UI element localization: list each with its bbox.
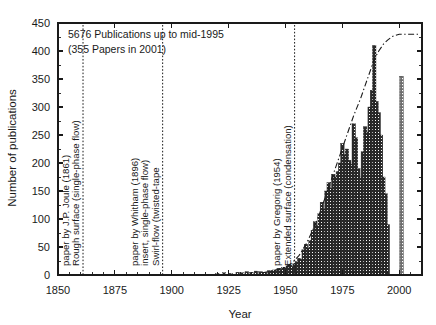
y-tick-label: 50 bbox=[38, 241, 50, 253]
event-annotation-line: insert, single-phase flow) bbox=[139, 160, 150, 266]
y-tick-label: 0 bbox=[44, 269, 50, 281]
event-annotation-line: Extended surface (condensation) bbox=[282, 125, 293, 266]
x-tick-label: 1850 bbox=[46, 284, 70, 296]
y-tick-label: 400 bbox=[32, 45, 50, 57]
y-tick-label: 450 bbox=[32, 17, 50, 29]
event-annotation-joule: Rough surface (single-phase flow)paper b… bbox=[60, 25, 83, 275]
event-annotation-line: paper by J.P. Joule (1861) bbox=[60, 155, 71, 266]
bar bbox=[386, 225, 390, 275]
y-tick-label: 200 bbox=[32, 157, 50, 169]
y-tick-label: 350 bbox=[32, 73, 50, 85]
plot-area bbox=[215, 34, 419, 275]
x-tick-label: 1900 bbox=[160, 284, 184, 296]
y-tick-label: 150 bbox=[32, 185, 50, 197]
chart-canvas: 0501001502002503003504004501850187519001… bbox=[0, 0, 436, 325]
y-tick-label: 100 bbox=[32, 213, 50, 225]
y-tick-label: 250 bbox=[32, 129, 50, 141]
x-tick-label: 1875 bbox=[103, 284, 127, 296]
event-annotation-line: paper by Whitham (1896) bbox=[129, 158, 140, 266]
bar bbox=[254, 271, 258, 275]
event-annotations: Rough surface (single-phase flow)paper b… bbox=[60, 25, 295, 275]
event-annotation-gregorig: Extended surface (condensation)paper by … bbox=[271, 25, 295, 275]
caption-line: 5676 Publications up to mid-1995 bbox=[68, 28, 224, 40]
x-tick-label: 1925 bbox=[216, 284, 240, 296]
event-annotation-whitham: Swirl-flow (twisted-tapeinsert, single-p… bbox=[129, 25, 163, 275]
y-tick-label: 300 bbox=[32, 101, 50, 113]
y-axis-title: Number of publications bbox=[6, 89, 18, 207]
event-annotation-line: paper by Gregorig (1954) bbox=[271, 158, 282, 266]
x-axis-title: Year bbox=[228, 308, 251, 320]
event-annotation-line: Rough surface (single-phase flow) bbox=[70, 120, 81, 266]
x-tick-label: 1975 bbox=[330, 284, 354, 296]
x-tick-label: 1950 bbox=[273, 284, 297, 296]
x-tick-label: 2000 bbox=[387, 284, 411, 296]
publications-chart-figure: 0501001502002503003504004501850187519001… bbox=[0, 0, 436, 325]
chart-caption: 5676 Publications up to mid-1995(355 Pap… bbox=[68, 28, 224, 55]
bar bbox=[400, 76, 404, 275]
event-annotation-line: Swirl-flow (twisted-tape bbox=[150, 167, 161, 266]
caption-line: (355 Papers in 2001) bbox=[68, 43, 166, 55]
